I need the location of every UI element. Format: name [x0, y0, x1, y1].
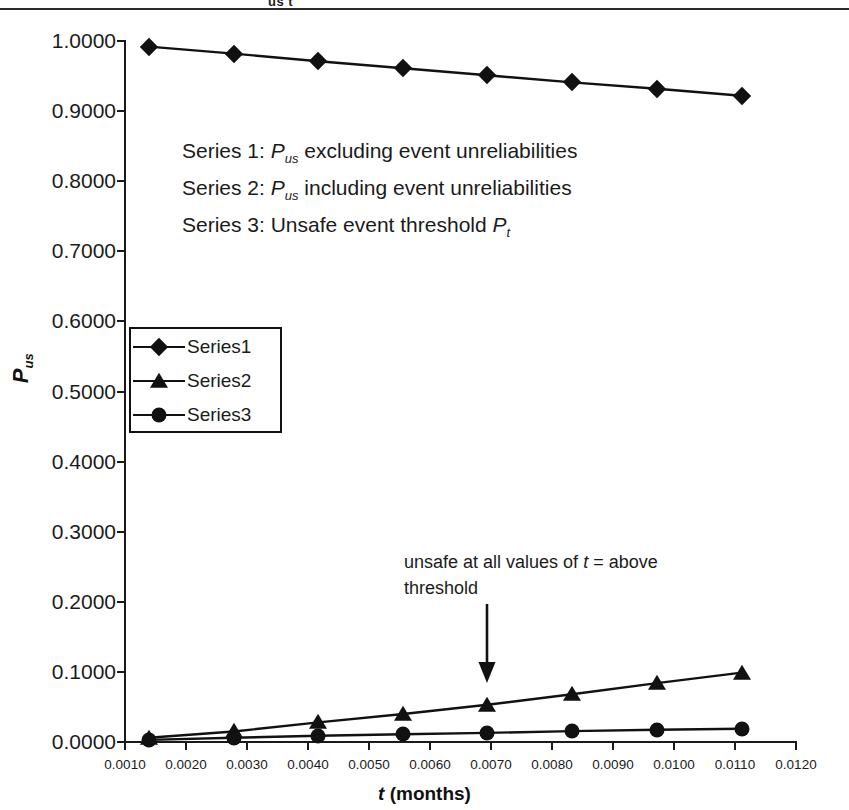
legend-label: Series2: [187, 370, 251, 392]
x-tick-label: 0.0060: [409, 757, 450, 772]
y-tick-mark: [117, 531, 125, 533]
legend-item-series1[interactable]: Series1: [131, 330, 280, 364]
x-tick-label: 0.0100: [653, 757, 694, 772]
chart-figure: us t 0.00000.10000.20000.30000.40000.500…: [0, 0, 849, 810]
x-tick-label: 0.0070: [470, 757, 511, 772]
y-tick-mark: [117, 320, 125, 322]
figure-top-rule: [0, 8, 849, 10]
y-tick-mark: [117, 601, 125, 603]
series-note-3-symbol: P: [493, 213, 507, 236]
circle-marker-icon: [311, 728, 326, 743]
y-axis-title: Pus: [8, 328, 36, 408]
x-tick-mark: [246, 742, 248, 750]
circle-marker-icon: [396, 727, 411, 742]
x-tick-label: 0.0090: [592, 757, 633, 772]
x-axis-line: [124, 741, 797, 743]
diamond-marker-icon: [648, 79, 666, 97]
x-tick-mark: [673, 742, 675, 750]
y-tick-mark: [117, 110, 125, 112]
diamond-marker-icon: [309, 52, 327, 70]
y-tick-label: 0.4000: [20, 450, 116, 474]
x-tick-label: 0.0080: [531, 757, 572, 772]
circle-marker-icon: [565, 724, 580, 739]
legend-item-series3[interactable]: Series3: [131, 398, 280, 432]
plot-lines: [0, 0, 849, 810]
diamond-marker-icon: [140, 37, 158, 55]
diamond-marker-icon: [563, 73, 581, 91]
series-note-2-suffix: including event unreliabilities: [298, 176, 571, 199]
y-tick-label: 0.3000: [20, 520, 116, 544]
y-tick-label: 1.0000: [20, 29, 116, 53]
diamond-marker-icon: [150, 338, 168, 356]
triangle-marker-icon: [648, 675, 666, 690]
y-tick-mark: [117, 461, 125, 463]
y-tick-mark: [117, 40, 125, 42]
x-axis-title: t (months): [0, 783, 849, 805]
series-note-1-symbol-sub: us: [285, 151, 299, 166]
legend-label: Series1: [187, 336, 251, 358]
legend-key: [131, 404, 187, 426]
x-tick-mark: [795, 742, 797, 750]
y-axis-title-sub: us: [21, 353, 36, 368]
circle-marker-icon: [480, 725, 495, 740]
series-description-block: Series 1: Pus excluding event unreliabil…: [182, 136, 577, 248]
series-note-1-symbol: P: [271, 139, 285, 162]
diamond-marker-icon: [733, 86, 751, 104]
legend-item-series2[interactable]: Series2: [131, 364, 280, 398]
x-tick-mark: [124, 742, 126, 750]
diamond-marker-icon: [478, 66, 496, 84]
legend-key: [131, 370, 187, 392]
x-tick-mark: [490, 742, 492, 750]
y-tick-label: 0.9000: [20, 99, 116, 123]
legend-label: Series3: [187, 404, 251, 426]
y-tick-mark: [117, 391, 125, 393]
y-tick-label: 0.7000: [20, 239, 116, 263]
circle-marker-icon: [141, 732, 156, 747]
y-tick-label: 0.2000: [20, 590, 116, 614]
circle-marker-icon: [649, 722, 664, 737]
series-note-1: Series 1: Pus excluding event unreliabil…: [182, 136, 577, 173]
y-tick-label: 0.0000: [20, 730, 116, 754]
x-axis-title-unit: (months): [384, 783, 471, 804]
series-note-1-prefix: Series 1:: [182, 139, 271, 162]
clipped-caption-remnant: us t: [268, 0, 448, 6]
y-tick-mark: [117, 671, 125, 673]
x-tick-mark: [612, 742, 614, 750]
x-tick-label: 0.0010: [104, 757, 145, 772]
x-tick-label: 0.0030: [226, 757, 267, 772]
x-tick-label: 0.0050: [348, 757, 389, 772]
threshold-note-line1-b: = above: [588, 552, 658, 572]
y-tick-mark: [117, 180, 125, 182]
x-tick-label: 0.0110: [715, 757, 755, 772]
series-note-1-suffix: excluding event unreliabilities: [298, 139, 577, 162]
diamond-marker-icon: [224, 44, 242, 62]
x-tick-mark: [307, 742, 309, 750]
y-tick-label: 0.8000: [20, 169, 116, 193]
triangle-marker-icon: [309, 714, 327, 729]
y-tick-mark: [117, 250, 125, 252]
triangle-marker-icon: [150, 373, 168, 388]
y-tick-label: 0.1000: [20, 660, 116, 684]
x-tick-label: 0.0120: [775, 757, 816, 772]
series-note-2-prefix: Series 2:: [182, 176, 271, 199]
x-tick-mark: [429, 742, 431, 750]
triangle-marker-icon: [394, 706, 412, 721]
x-tick-mark: [185, 742, 187, 750]
x-tick-mark: [368, 742, 370, 750]
x-tick-label: 0.0040: [287, 757, 328, 772]
series-note-3-symbol-sub: t: [507, 226, 511, 241]
x-tick-mark: [734, 742, 736, 750]
chart-legend: Series1Series2Series3: [129, 327, 282, 433]
circle-marker-icon: [152, 408, 167, 423]
threshold-note-line2: threshold: [404, 575, 704, 601]
threshold-annotation-text: unsafe at all values of t = above thresh…: [404, 549, 704, 601]
triangle-marker-icon: [478, 697, 496, 712]
y-axis-title-main: P: [8, 368, 33, 383]
series-note-3: Series 3: Unsafe event threshold Pt: [182, 210, 577, 247]
x-tick-mark: [551, 742, 553, 750]
triangle-marker-icon: [733, 664, 751, 679]
series-note-2: Series 2: Pus including event unreliabil…: [182, 173, 577, 210]
threshold-arrow-icon: [470, 604, 504, 684]
circle-marker-icon: [226, 730, 241, 745]
diamond-marker-icon: [394, 59, 412, 77]
